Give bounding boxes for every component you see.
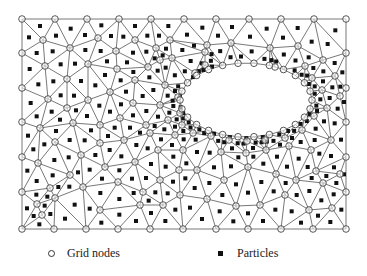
particle (147, 199, 151, 203)
mesh-edge (183, 199, 207, 229)
grid-node (19, 154, 26, 161)
particle (89, 128, 93, 132)
mesh-edge (45, 48, 70, 66)
grid-node (47, 185, 54, 192)
grid-node (97, 207, 104, 214)
particle (236, 155, 240, 159)
mesh-edge (281, 195, 285, 229)
particle (149, 211, 153, 215)
particle (132, 191, 136, 195)
particle (83, 138, 87, 142)
particle (208, 151, 212, 155)
particle (35, 51, 39, 55)
particle (43, 204, 47, 208)
particle (153, 190, 157, 194)
particle (175, 117, 179, 121)
grid-node (167, 37, 174, 44)
mesh-edge (22, 128, 40, 157)
mesh-edge (313, 208, 332, 229)
grid-node (132, 159, 139, 166)
legend-particles: Particles (218, 246, 278, 261)
particle (183, 69, 187, 73)
particle (145, 34, 149, 38)
mesh-edge (40, 123, 73, 128)
particle (74, 108, 78, 112)
grid-node (282, 192, 289, 199)
particle (332, 192, 336, 196)
particle (38, 24, 42, 28)
particle (52, 158, 56, 162)
particle (162, 127, 166, 131)
grid-node (218, 149, 225, 156)
mesh-edge (180, 170, 197, 195)
grid-node (19, 85, 26, 92)
grid-node (35, 160, 42, 167)
particle (54, 34, 58, 38)
particle (333, 28, 337, 32)
particle (210, 52, 214, 56)
particle (63, 217, 67, 221)
grid-node (85, 61, 92, 68)
particle (333, 61, 337, 65)
particle (218, 49, 222, 53)
mesh-edge (133, 103, 160, 105)
particle (251, 155, 255, 159)
particle (324, 174, 328, 178)
grid-node (179, 88, 186, 95)
particle (281, 36, 285, 40)
particle (113, 126, 117, 130)
mesh-edge (158, 150, 179, 170)
particle (231, 219, 235, 223)
particle (182, 137, 186, 141)
particle (131, 113, 135, 117)
particle (166, 94, 170, 98)
particle (119, 154, 123, 158)
grid-node (221, 177, 228, 184)
grid-node (343, 16, 350, 23)
particle (188, 206, 192, 210)
particle (76, 170, 80, 174)
particle (185, 33, 189, 37)
particle (326, 42, 330, 46)
particle (229, 55, 233, 59)
grid-node (19, 119, 26, 126)
particle (51, 49, 55, 53)
particle (32, 214, 36, 218)
particle (200, 217, 204, 221)
grid-node (337, 171, 344, 178)
grid-node (299, 127, 306, 134)
grid-node (329, 205, 336, 212)
mesh-edge (43, 40, 45, 66)
mesh-edge (22, 188, 50, 192)
grid-node (324, 105, 331, 112)
grid-node (205, 66, 212, 73)
grid-node (243, 150, 250, 157)
particle (131, 51, 135, 55)
particle (100, 177, 104, 181)
particle (189, 126, 193, 130)
particle (36, 82, 40, 86)
particle (117, 213, 121, 217)
particle (164, 165, 168, 169)
particle (108, 148, 112, 152)
grid-node (132, 77, 139, 84)
grid-node (84, 16, 91, 23)
grid-node (83, 226, 90, 233)
particle (156, 69, 160, 73)
grid-node (244, 138, 251, 145)
mesh-edge (170, 40, 205, 52)
grid-node (114, 66, 121, 73)
mesh-edge (236, 206, 248, 229)
grid-node (307, 106, 314, 113)
particle (319, 198, 323, 202)
mesh-edge (216, 19, 231, 43)
particle (68, 138, 72, 142)
particle (290, 136, 294, 140)
particle (234, 182, 238, 186)
grid-node (172, 132, 179, 139)
mesh-edge (170, 40, 207, 45)
particle (173, 73, 177, 77)
particle (50, 110, 54, 114)
grid-node (78, 152, 85, 159)
particle (73, 203, 77, 207)
